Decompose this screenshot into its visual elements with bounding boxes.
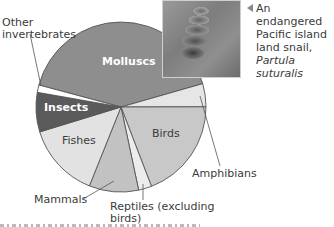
caption-line-2: Pacific island — [256, 28, 334, 41]
label-other-invertebrates: Other invertebrates — [2, 17, 76, 41]
snail-photo — [162, 0, 241, 78]
pointer-triangle-icon — [247, 4, 253, 12]
caption-line-1: An endangered — [256, 2, 334, 28]
caption-species: Partula suturalis — [256, 54, 334, 80]
clipped-caption-text — [0, 222, 334, 227]
label-fishes: Fishes — [62, 134, 96, 147]
label-amphibians: Amphibians — [192, 168, 257, 180]
label-mammals: Mammals — [34, 194, 87, 206]
caption-line-3: land snail, — [256, 41, 334, 54]
label-other-line2: invertebrates — [2, 29, 76, 41]
leader-other — [30, 34, 41, 86]
photo-caption: An endangered Pacific island land snail,… — [256, 2, 334, 80]
label-insects: Insects — [44, 101, 88, 114]
label-birds: Birds — [152, 127, 180, 140]
label-molluscs: Molluscs — [102, 55, 156, 68]
